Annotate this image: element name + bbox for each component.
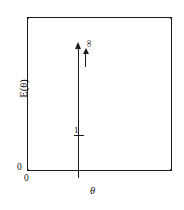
frame-corner-dot-bottom-left (27, 169, 30, 172)
delta-impulse-line (78, 48, 79, 171)
infinity-annotation-line (85, 53, 86, 67)
y-axis-label: E(θ) (18, 59, 29, 119)
y-axis-origin-label: 0 (17, 162, 22, 172)
x-axis-tick-mark (78, 171, 79, 178)
infinity-symbol: ∞ (83, 36, 94, 52)
figure-canvas: E(θ) θ 0 0 1 1 ∞ (0, 0, 184, 210)
frame-corner-dot-top-right (170, 17, 173, 20)
frame-corner-dot-top-left (27, 17, 30, 20)
delta-impulse-arrowhead-icon (75, 42, 81, 49)
frame-corner-dot-bottom-right (170, 169, 173, 172)
x-axis-label: θ (90, 185, 95, 196)
x-axis-origin-label: 0 (24, 173, 29, 183)
plot-frame (27, 17, 172, 171)
unit-amplitude-label: 1 (74, 125, 79, 135)
